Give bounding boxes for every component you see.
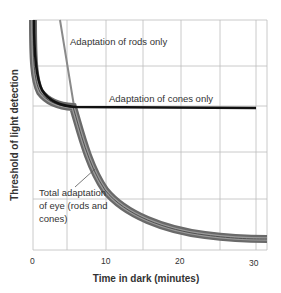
total-label-line2: of eye (rods and <box>39 200 108 211</box>
total-leader-line <box>75 169 95 187</box>
x-tick-20: 20 <box>175 256 185 266</box>
y-axis-title: Threshold of light detection <box>9 69 20 201</box>
total-label-line3: cones) <box>39 213 68 224</box>
cones-label: Adaptation of cones only <box>109 93 213 104</box>
x-tick-0: 0 <box>30 256 35 266</box>
threshold-chart: Adaptation of rods only Adaptation of co… <box>0 0 281 293</box>
x-axis-title: Time in dark (minutes) <box>93 273 200 284</box>
total-label-line1: Total adaptation <box>39 187 106 198</box>
x-tick-30: 30 <box>249 258 259 268</box>
x-tick-10: 10 <box>101 256 111 266</box>
rods-label: Adaptation of rods only <box>70 36 167 47</box>
grid <box>33 20 267 250</box>
